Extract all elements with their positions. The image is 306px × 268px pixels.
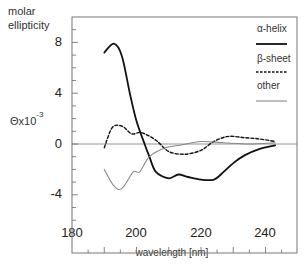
axis-ticks (72, 30, 282, 253)
series-other (104, 141, 275, 189)
plot-frame (72, 17, 297, 253)
legend-swatches (256, 44, 287, 101)
series-alpha-helix (104, 44, 275, 181)
series-beta-sheet (104, 125, 275, 154)
plot-border (72, 17, 297, 253)
chart-plot (0, 0, 306, 268)
data-series (104, 44, 275, 190)
